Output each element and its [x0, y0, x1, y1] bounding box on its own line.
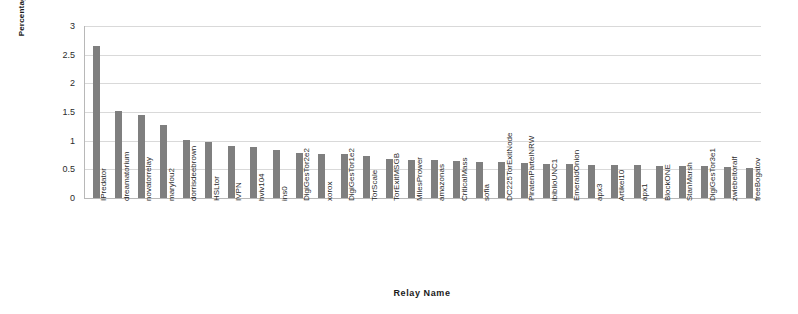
- x-tick-slot: dorrisdeebrown: [174, 199, 197, 283]
- x-tick-slot: BlockONE: [647, 199, 670, 283]
- x-axis-tick-label: IPredator: [99, 168, 108, 201]
- x-tick-slot: Artikel10: [602, 199, 625, 283]
- x-axis-tick-label: EmeraldOnion: [572, 150, 581, 201]
- x-tick-slot: MilesPrower: [399, 199, 422, 283]
- x-axis-tick-label: DigiGesTor3e1: [708, 148, 717, 201]
- bar-slot: [310, 26, 333, 198]
- x-axis-tick-label: HSLtor: [212, 176, 221, 201]
- x-axis-tick-label: BlockONE: [663, 164, 672, 201]
- x-axis-tick-label: freeBogatov: [753, 158, 762, 201]
- y-axis-tick-label: 2.5: [62, 50, 75, 60]
- x-tick-slot: zwiebeltoralf: [715, 199, 738, 283]
- x-tick-slot: novatorrelay: [129, 199, 152, 283]
- x-axis-tick-labels: IPredatordreamatoriumnovatorrelaymarylou…: [84, 199, 760, 283]
- y-axis-tick-label: 0.5: [62, 164, 75, 174]
- x-tick-slot: IPredator: [84, 199, 107, 283]
- x-tick-slot: DigiGesTor1e2: [332, 199, 355, 283]
- x-tick-slot: DC225TorExitNode: [490, 199, 513, 283]
- x-tick-slot: StanMarsh: [670, 199, 693, 283]
- x-tick-slot: freeBogatov: [737, 199, 760, 283]
- x-tick-slot: HSLtor: [197, 199, 220, 283]
- y-axis-tick-label: 1: [70, 136, 75, 146]
- x-axis-tick-label: DC225TorExitNode: [505, 133, 514, 201]
- x-tick-slot: ins0: [264, 199, 287, 283]
- x-tick-slot: xorox: [309, 199, 332, 283]
- x-tick-slot: hviv104: [242, 199, 265, 283]
- x-tick-slot: TorExitMSGB: [377, 199, 400, 283]
- y-axis-tick-label: 2: [70, 78, 75, 88]
- bar[interactable]: [656, 166, 663, 198]
- x-tick-slot: amazonas: [422, 199, 445, 283]
- x-axis-title: Relay Name: [84, 288, 760, 298]
- x-tick-slot: CriticalMass: [445, 199, 468, 283]
- x-axis-tick-label: TorScale: [370, 170, 379, 201]
- bar-slot: [265, 26, 288, 198]
- x-axis-tick-label: zwiebeltoralf: [730, 157, 739, 201]
- x-axis-tick-label: marylou2: [167, 168, 176, 201]
- x-axis-tick-label: dorrisdeebrown: [189, 146, 198, 201]
- bar-slot: [198, 26, 221, 198]
- x-axis-tick-label: amazonas: [437, 164, 446, 201]
- x-axis-tick-label: DigiGesTor2e2: [302, 148, 311, 201]
- y-axis-tick-label: 1.5: [62, 107, 75, 117]
- x-tick-slot: dreamatorium: [107, 199, 130, 283]
- x-tick-slot: ibiblioUNC1: [535, 199, 558, 283]
- bar-slot: [468, 26, 491, 198]
- bar[interactable]: [273, 150, 280, 198]
- x-axis-tick-label: TorExitMSGB: [392, 153, 401, 201]
- bar-slot: [220, 26, 243, 198]
- y-axis-tick-label: 0: [70, 193, 75, 203]
- x-axis-tick-label: dreamatorium: [122, 152, 131, 201]
- bar-chart: Percentage (%) 00.511.522.53 IPredatordr…: [0, 0, 798, 314]
- x-tick-slot: apx3: [580, 199, 603, 283]
- y-axis-tick-label: 3: [70, 21, 75, 31]
- x-tick-slot: DigiGesTor3e1: [692, 199, 715, 283]
- x-tick-slot: sofia: [467, 199, 490, 283]
- x-axis-tick-label: Artikel10: [617, 170, 626, 201]
- x-axis-tick-label: PiratenParteiNRW: [527, 136, 536, 201]
- x-axis-tick-label: MilesPrower: [415, 157, 424, 201]
- x-tick-slot: EmeraldOnion: [557, 199, 580, 283]
- x-tick-slot: DigiGesTor2e2: [287, 199, 310, 283]
- y-axis-title: Percentage (%): [14, 0, 30, 66]
- bar-slot: [626, 26, 649, 198]
- x-axis-tick-label: DigiGesTor1e2: [347, 148, 356, 201]
- x-tick-slot: marylou2: [152, 199, 175, 283]
- x-tick-slot: IVPN: [219, 199, 242, 283]
- bar-slot: [581, 26, 604, 198]
- x-axis-tick-label: novatorrelay: [144, 157, 153, 201]
- x-tick-slot: PiratenParteiNRW: [512, 199, 535, 283]
- x-axis-tick-label: hviv104: [257, 173, 266, 201]
- x-tick-slot: TorScale: [354, 199, 377, 283]
- x-tick-slot: apx1: [625, 199, 648, 283]
- y-axis-tick-labels: 00.511.522.53: [40, 20, 80, 198]
- x-axis-tick-label: ibiblioUNC1: [550, 159, 559, 201]
- x-axis-tick-label: CriticalMass: [460, 157, 469, 201]
- x-axis-tick-label: StanMarsh: [685, 162, 694, 201]
